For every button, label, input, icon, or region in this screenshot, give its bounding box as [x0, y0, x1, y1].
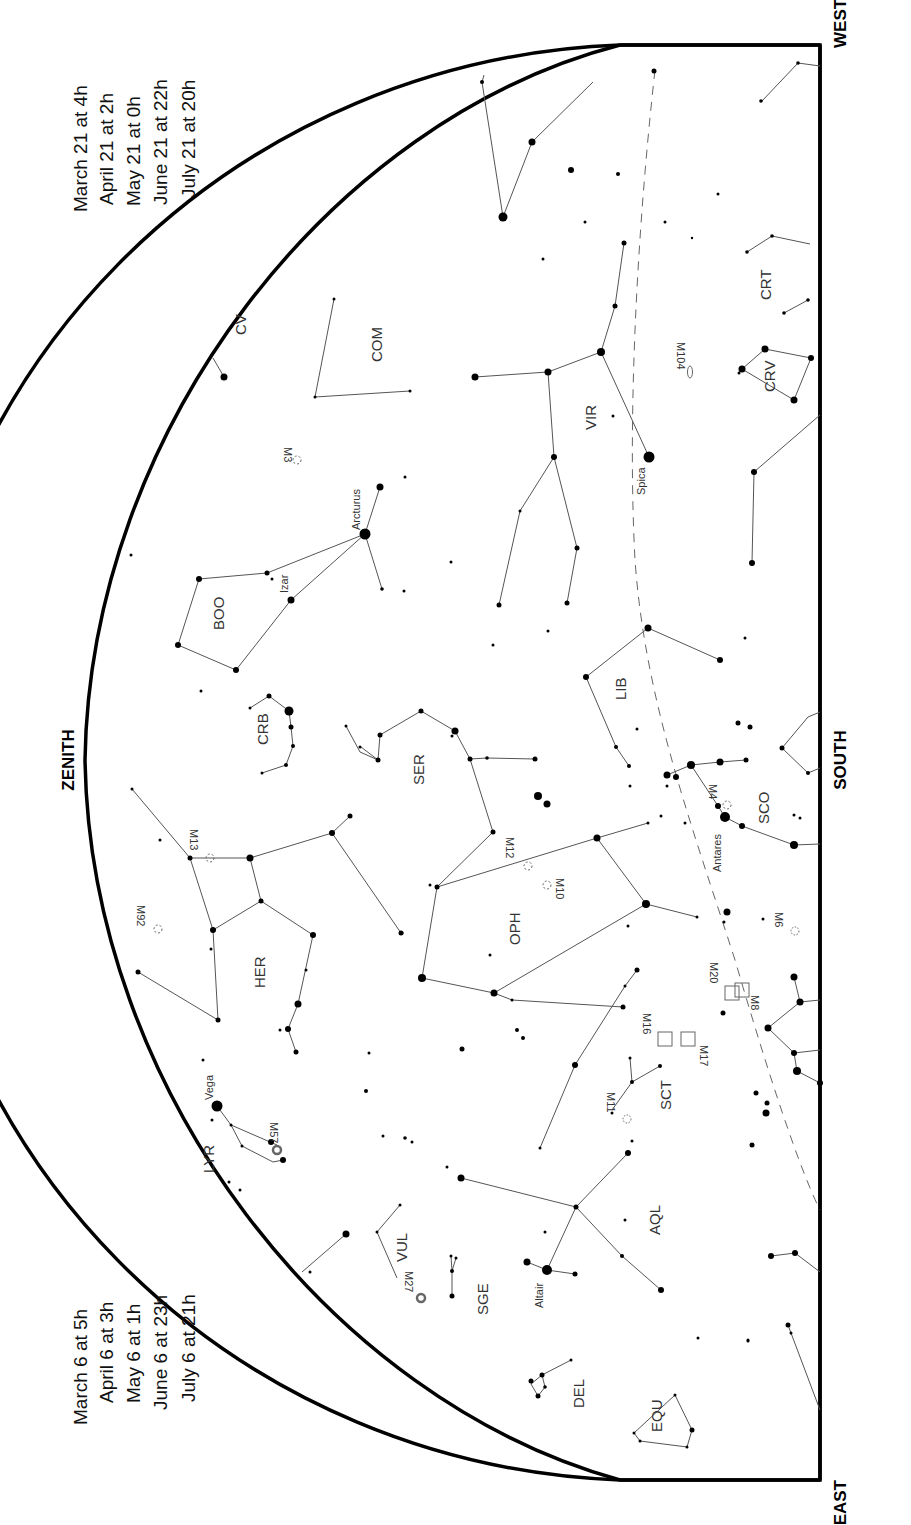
label-crv: CRV: [761, 361, 778, 392]
m12-globular-icon: [524, 862, 532, 870]
ecliptic-line: [632, 70, 820, 1210]
time-row: March 21 at 4h: [70, 85, 91, 212]
m17-nebula-icon: [681, 1032, 695, 1046]
label-m11: M11: [605, 1092, 617, 1113]
label-m16: M16: [641, 1013, 653, 1034]
label-crb: CRB: [254, 713, 271, 745]
label-m12: M12: [504, 837, 516, 858]
label-m10: M10: [554, 878, 566, 899]
time-row: June 21 at 22h: [150, 79, 171, 205]
time-row: June 6 at 23h: [150, 1295, 171, 1410]
label-vir: VIR: [582, 405, 599, 430]
time-row: July 6 at 21h: [178, 1294, 199, 1402]
label-spica: Spica: [635, 467, 647, 495]
label-ser: SER: [410, 754, 427, 785]
label-m17: M17: [698, 1045, 710, 1066]
time-row: July 21 at 20h: [178, 80, 199, 198]
label-m104: M104: [675, 342, 687, 370]
label-del: DEL: [570, 1379, 587, 1408]
time-row: May 6 at 1h: [123, 1304, 144, 1403]
label-m20: M20: [708, 962, 720, 983]
label-m13: M13: [188, 829, 200, 850]
time-table-left: March 6 at 5h April 6 at 3h May 6 at 1h …: [70, 1294, 199, 1425]
m10-globular-icon: [543, 881, 551, 889]
label-lyr: LYR: [200, 1145, 217, 1173]
label-m27: M27: [403, 1271, 415, 1292]
time-row: April 6 at 3h: [96, 1302, 117, 1403]
east-label: EAST: [831, 1479, 850, 1525]
label-m3: M3: [282, 447, 294, 462]
label-cvn: CV: [232, 314, 249, 335]
label-her: HER: [251, 956, 268, 988]
time-row: May 21 at 0h: [123, 96, 144, 206]
label-com: COM: [368, 327, 385, 362]
label-izar: Izar: [278, 574, 290, 593]
m57-planetary-icon: [273, 1146, 281, 1154]
label-aql: AQL: [646, 1205, 663, 1235]
label-m6: M6: [773, 912, 785, 927]
label-m57: M57: [268, 1122, 280, 1143]
label-m8: M8: [749, 995, 761, 1010]
label-sco: SCO: [755, 791, 772, 824]
m27-planetary-icon: [417, 1294, 425, 1302]
label-antares: Antares: [711, 834, 723, 872]
south-label: SOUTH: [831, 730, 850, 790]
stars: [130, 61, 824, 1448]
west-label: WEST: [831, 0, 850, 48]
constellation-lines: [132, 63, 820, 1447]
label-lib: LIB: [612, 677, 629, 700]
label-sct: SCT: [657, 1080, 674, 1110]
label-oph: OPH: [506, 912, 523, 945]
label-equ: EQU: [648, 1399, 665, 1432]
horizon-arc: [85, 45, 620, 1480]
label-vega: Vega: [203, 1074, 215, 1100]
star-chart: ZENITH WEST SOUTH EAST March 6 at 5h Apr…: [0, 0, 911, 1525]
label-m92: M92: [135, 905, 147, 926]
m104-galaxy-icon: [688, 366, 693, 378]
zenith-label: ZENITH: [59, 729, 78, 790]
m92-globular-icon: [154, 925, 162, 933]
constellation-labels: COM VIR CRT CRV BOO CRB SER LIB SCO HER …: [200, 269, 778, 1432]
time-row: March 6 at 5h: [70, 1309, 91, 1425]
label-crt: CRT: [757, 269, 774, 300]
label-boo: BOO: [210, 597, 227, 630]
m11-cluster-icon: [623, 1115, 631, 1123]
label-altair: Altair: [533, 1283, 545, 1308]
deep-sky-labels: M3 M104 M13 M92 M12 M10 M4 M6 M8 M20 M16…: [135, 342, 785, 1292]
m4-globular-icon: [723, 801, 731, 809]
m20-nebula-icon: [725, 986, 739, 1000]
m6-cluster-icon: [791, 927, 799, 935]
time-table-right: March 21 at 4h April 21 at 2h May 21 at …: [70, 79, 199, 212]
star-labels: Arcturus Izar Spica Antares Vega Altair: [203, 467, 723, 1308]
label-arcturus: Arcturus: [350, 489, 362, 530]
label-vul: VUL: [393, 1233, 410, 1262]
time-row: April 21 at 2h: [96, 93, 117, 205]
m16-nebula-icon: [658, 1032, 672, 1046]
label-m4: M4: [707, 784, 719, 799]
label-sge: SGE: [474, 1283, 491, 1315]
deep-sky-objects: [154, 366, 799, 1302]
